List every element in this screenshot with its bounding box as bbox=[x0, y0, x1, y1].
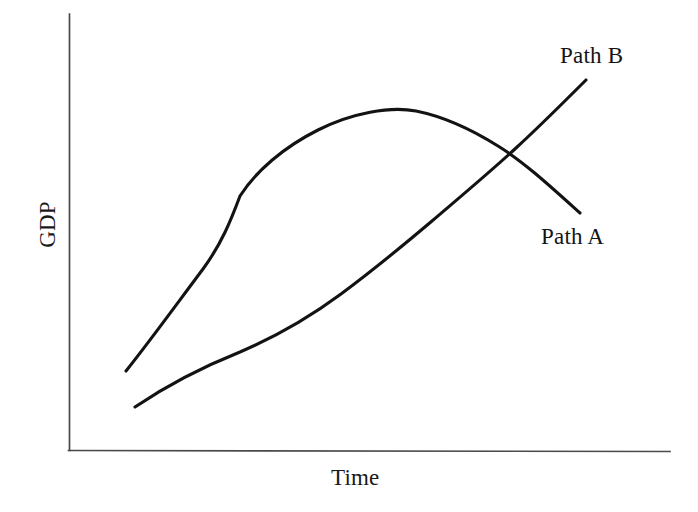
chart-plot-area bbox=[0, 0, 698, 512]
series-label-path-b: Path B bbox=[560, 44, 623, 67]
gdp-paths-chart: GDP Time Path B Path A bbox=[0, 0, 698, 512]
x-axis-line bbox=[69, 451, 671, 452]
y-axis-label: GDP bbox=[36, 201, 59, 248]
series-label-path-a: Path A bbox=[541, 225, 604, 248]
series-line-path-b bbox=[135, 80, 586, 407]
x-axis-label: Time bbox=[331, 466, 380, 489]
series-line-path-a bbox=[126, 109, 580, 371]
